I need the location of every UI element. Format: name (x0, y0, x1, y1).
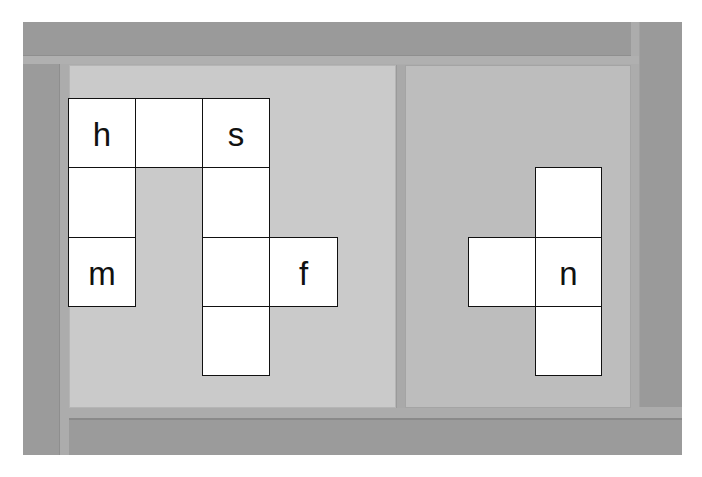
grid-cell (202, 237, 270, 307)
grid-cell (468, 237, 536, 307)
grid-cell (202, 167, 270, 238)
cell-letter: f (299, 255, 308, 290)
grid-cell: h (68, 98, 136, 168)
grid-cell (68, 167, 136, 238)
grid-cell: n (535, 237, 602, 307)
grid-cell: f (269, 237, 338, 307)
cell-letter: h (93, 116, 111, 151)
top-separator (23, 56, 682, 64)
bottom-bar (69, 418, 682, 455)
top-bar (23, 22, 631, 56)
grid-cell (135, 98, 203, 168)
cell-letter: s (228, 116, 245, 151)
grid-cell (202, 306, 270, 376)
cell-letter: m (88, 255, 116, 290)
grid-cell: m (68, 237, 136, 307)
panel-divider (396, 65, 405, 408)
left-column (23, 64, 60, 455)
grid-cell: s (202, 98, 270, 168)
cell-letter: n (559, 255, 577, 290)
right-column (639, 22, 682, 407)
grid-cell (535, 306, 602, 376)
grid-cell (535, 167, 602, 238)
